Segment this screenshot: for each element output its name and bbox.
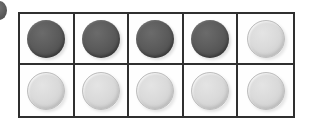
grid-cell-r1c1[interactable]	[20, 14, 75, 65]
grid-cell-r1c2[interactable]	[75, 14, 130, 65]
light-coin[interactable]	[27, 72, 65, 110]
grid-cell-r2c4[interactable]	[184, 65, 239, 116]
grid-cell-r1c5[interactable]	[238, 14, 293, 65]
light-coin[interactable]	[82, 72, 120, 110]
grid-cell-r2c3[interactable]	[129, 65, 184, 116]
grid-cell-r2c2[interactable]	[75, 65, 130, 116]
cropped-circle-marker	[0, 1, 7, 20]
light-coin[interactable]	[247, 72, 285, 110]
figure-canvas	[0, 0, 313, 127]
grid-cell-r2c1[interactable]	[20, 65, 75, 116]
light-coin[interactable]	[191, 72, 229, 110]
grid-cell-r1c3[interactable]	[129, 14, 184, 65]
dark-coin[interactable]	[136, 20, 174, 58]
coin-grid	[18, 12, 295, 118]
grid-cell-r2c5[interactable]	[238, 65, 293, 116]
light-coin[interactable]	[247, 20, 285, 58]
grid-cell-r1c4[interactable]	[184, 14, 239, 65]
dark-coin[interactable]	[82, 20, 120, 58]
dark-coin[interactable]	[191, 20, 229, 58]
dark-coin[interactable]	[27, 20, 65, 58]
light-coin[interactable]	[136, 72, 174, 110]
